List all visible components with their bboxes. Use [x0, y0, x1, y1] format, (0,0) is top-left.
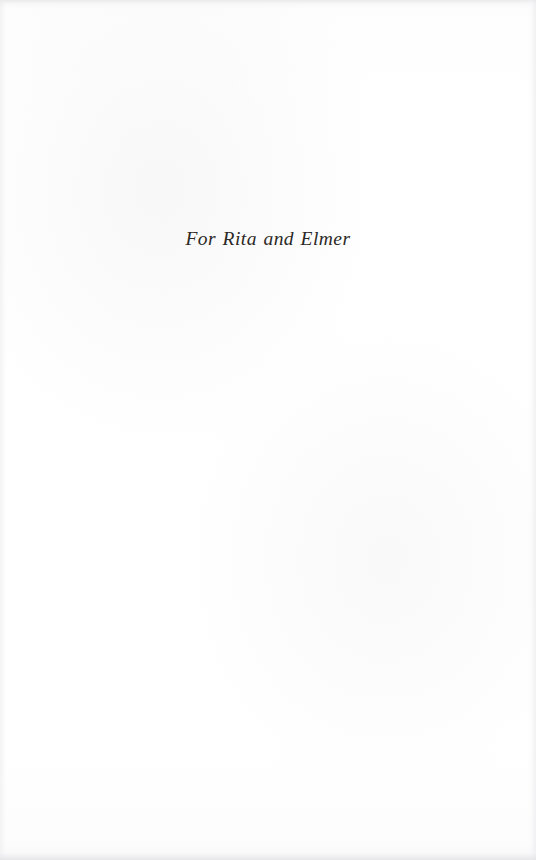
paper-texture: [0, 0, 536, 860]
scan-edge-right: [526, 0, 536, 860]
dedication-text: For Rita and Elmer: [186, 228, 351, 250]
scan-edge-bottom: [0, 846, 536, 860]
scan-edge-left: [0, 0, 6, 860]
document-page: For Rita and Elmer: [0, 0, 536, 860]
scan-edge-top: [0, 0, 536, 9]
dedication-block: For Rita and Elmer: [0, 228, 536, 250]
